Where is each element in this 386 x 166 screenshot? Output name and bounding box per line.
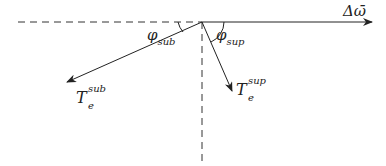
diagram-svg [0,0,386,166]
diagram-canvas: Δω̄ φsub φsup T sub e T sup e [0,0,386,166]
phi-sub-arc [178,22,183,32]
phi-sup-label: φsup [216,26,245,44]
t-e-sub-base: T [76,90,87,106]
phi-sup-base: φ [216,26,227,44]
t-e-sup-subscript: e [248,93,254,103]
delta-omega-label: Δω̄ [343,4,366,19]
phi-sub-label: φsub [147,26,176,44]
t-e-sub-label: T sub e [76,84,116,110]
t-e-sup-label: T sup e [236,76,276,102]
t-e-sup-base: T [236,82,247,98]
t-e-sub-superscript: sub [88,84,106,94]
phi-sub-subscript: sub [158,36,176,47]
t-e-sub-subscript: e [88,101,94,111]
phi-sup-subscript: sup [227,36,245,47]
phi-sub-base: φ [147,26,158,44]
t-e-sup-superscript: sup [248,76,266,86]
